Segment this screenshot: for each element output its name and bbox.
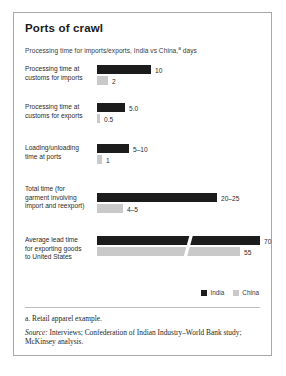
bar-row-china: 55 — [97, 247, 271, 256]
bar-value-china: 0.5 — [104, 115, 113, 124]
bar-group: Average lead time for exporting goods to… — [14, 236, 271, 276]
bar-value-india: 70 — [264, 237, 271, 246]
bar-row-india: 5–10 — [97, 144, 271, 153]
bar-india[interactable] — [97, 144, 129, 153]
bar-pair: 10 2 — [97, 65, 271, 85]
source-text: Interviews; Confederation of Indian Indu… — [25, 328, 242, 346]
source-note: Source: Interviews; Confederation of Ind… — [25, 328, 263, 347]
bar-row-china: 1 — [97, 155, 271, 164]
bar-row-china: 2 — [97, 76, 271, 85]
bar-group: Total time (for garment involving import… — [14, 185, 271, 236]
label-line: Average lead time — [25, 236, 99, 245]
bar-category-label: Total time (for garment involving import… — [25, 185, 99, 211]
label-line: Loading/unloading — [25, 144, 99, 153]
exhibit-frame: Ports of crawl Processing time for impor… — [13, 12, 272, 356]
bar-value-china: 2 — [112, 77, 116, 86]
bar-china[interactable] — [97, 247, 240, 256]
bar-india[interactable] — [97, 65, 151, 74]
bar-row-india: 70 — [97, 236, 271, 245]
exhibit-title: Ports of crawl — [25, 22, 103, 34]
bar-value-india: 10 — [155, 66, 162, 75]
label-line: garment involving — [25, 194, 99, 203]
chart-area: Processing time at customs for imports 1… — [14, 65, 271, 276]
label-line: to United States — [25, 253, 99, 262]
subtitle-unit: days — [181, 47, 197, 54]
bar-row-india: 5.0 — [97, 103, 271, 112]
label-line: Processing time at — [25, 103, 99, 112]
bar-china[interactable] — [97, 204, 123, 213]
label-line: time at ports — [25, 153, 99, 162]
legend-swatch-india-icon — [201, 290, 207, 296]
bar-group: Loading/unloading time at ports 5–10 1 — [14, 144, 271, 185]
footnote: a. Retail apparel example. — [25, 314, 261, 323]
bar-pair: 5–10 1 — [97, 144, 271, 164]
exhibit-subtitle: Processing time for imports/exports, Ind… — [25, 47, 197, 54]
bar-india[interactable] — [97, 236, 260, 245]
bar-category-label: Loading/unloading time at ports — [25, 144, 99, 161]
bar-china[interactable] — [97, 114, 100, 123]
bar-pair: 5.0 0.5 — [97, 103, 271, 123]
label-line: Processing time at — [25, 65, 99, 74]
bar-row-china: 4–5 — [97, 204, 271, 213]
bar-value-india: 20–25 — [221, 194, 239, 203]
bar-group: Processing time at customs for exports 5… — [14, 103, 271, 144]
bar-china[interactable] — [97, 155, 102, 164]
legend-item-china[interactable]: China — [233, 289, 259, 296]
bar-row-china: 0.5 — [97, 114, 271, 123]
subtitle-text: Processing time for imports/exports, Ind… — [25, 47, 178, 54]
bar-pair: 20–25 4–5 — [97, 193, 271, 213]
footer-divider — [25, 307, 260, 308]
bar-value-china: 4–5 — [127, 205, 138, 214]
label-line: Total time (for — [25, 185, 99, 194]
bar-category-label: Processing time at customs for exports — [25, 103, 99, 120]
bar-value-india: 5.0 — [129, 104, 138, 113]
legend-label-india: India — [210, 289, 224, 296]
source-label: Source: — [25, 328, 48, 337]
legend-item-india[interactable]: India — [201, 289, 224, 296]
chart-legend: India China — [201, 289, 259, 296]
bar-pair: 70 55 — [97, 236, 271, 256]
bar-value-india: 5–10 — [133, 145, 148, 154]
bar-row-india: 20–25 — [97, 193, 271, 202]
bar-china[interactable] — [97, 76, 108, 85]
bar-category-label: Processing time at customs for imports — [25, 65, 99, 82]
label-line: for exporting goods — [25, 245, 99, 254]
bar-india[interactable] — [97, 103, 125, 112]
label-line: customs for imports — [25, 74, 99, 83]
legend-swatch-china-icon — [233, 290, 239, 296]
bar-india[interactable] — [97, 193, 217, 202]
bar-row-india: 10 — [97, 65, 271, 74]
bar-value-china: 55 — [244, 248, 251, 257]
bar-group: Processing time at customs for imports 1… — [14, 65, 271, 103]
label-line: import and reexport) — [25, 202, 99, 211]
bar-value-china: 1 — [106, 156, 110, 165]
label-line: customs for exports — [25, 112, 99, 121]
legend-label-china: China — [242, 289, 259, 296]
bar-category-label: Average lead time for exporting goods to… — [25, 236, 99, 262]
